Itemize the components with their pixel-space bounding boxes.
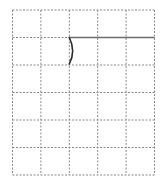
grid-diagram [0, 0, 166, 186]
curved-arc [69, 38, 72, 65]
dashed-grid [13, 10, 155, 175]
drawn-shapes [69, 38, 154, 65]
